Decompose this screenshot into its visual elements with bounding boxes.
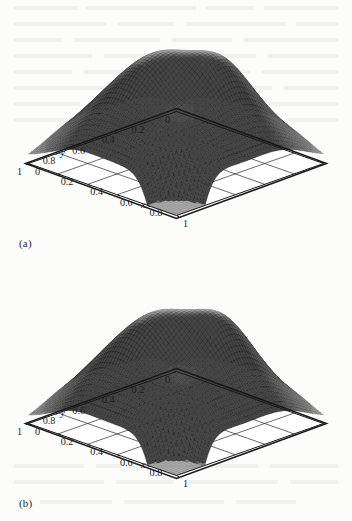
y-tick-label-0.6: 0.6 xyxy=(72,405,85,416)
panel-a-label: (a) xyxy=(19,237,32,249)
y-tick-label-0.8: 0.8 xyxy=(43,155,56,166)
y-tick-label-0.6: 0.6 xyxy=(72,145,85,156)
y-axis-name: y xyxy=(59,407,65,418)
panel-b-label: (b) xyxy=(19,497,32,509)
y-tick-label-0.4: 0.4 xyxy=(102,134,115,145)
x-tick-label-0.6: 0.6 xyxy=(120,457,133,468)
y-tick-label-1: 1 xyxy=(17,166,22,177)
x-tick-label-1: 1 xyxy=(183,478,188,489)
x-tick-label-0.4: 0.4 xyxy=(90,446,103,457)
y-tick-label-0.8: 0.8 xyxy=(43,415,56,426)
y-tick-label-0.2: 0.2 xyxy=(132,384,145,395)
surface-mesh xyxy=(29,309,324,475)
surface-plot-b-canvas: 00.20.40.60.8100.20.40.60.81yx xyxy=(0,260,352,521)
x-tick-label-0.8: 0.8 xyxy=(150,207,163,218)
x-tick-label-0.2: 0.2 xyxy=(61,176,74,187)
x-tick-label-0.6: 0.6 xyxy=(120,197,133,208)
x-tick-label-0.8: 0.8 xyxy=(150,467,163,478)
y-axis-name: y xyxy=(59,147,65,158)
y-tick-label-0.4: 0.4 xyxy=(102,394,115,405)
x-tick-label-0: 0 xyxy=(35,166,40,177)
surface-plot-panel-b: 00.20.40.60.8100.20.40.60.81yx (b) xyxy=(0,260,352,521)
x-axis-name: x xyxy=(140,459,146,470)
x-tick-label-0.2: 0.2 xyxy=(61,436,74,447)
y-tick-label-0.2: 0.2 xyxy=(132,124,145,135)
y-tick-label-0: 0 xyxy=(165,374,170,385)
x-tick-label-0.4: 0.4 xyxy=(90,186,103,197)
surface-plot-a-canvas: 00.20.40.60.8100.20.40.60.81yx xyxy=(0,0,352,261)
y-tick-label-0: 0 xyxy=(165,114,170,125)
surface-plot-panel-a: 00.20.40.60.8100.20.40.60.81yx (a) xyxy=(0,0,352,261)
surface-mesh xyxy=(29,50,324,216)
x-tick-label-0: 0 xyxy=(35,426,40,437)
y-tick-label-1: 1 xyxy=(17,426,22,437)
figure-page: 00.20.40.60.8100.20.40.60.81yx (a) 00.20… xyxy=(0,0,352,521)
x-tick-label-1: 1 xyxy=(183,218,188,229)
x-axis-name: x xyxy=(140,199,146,210)
